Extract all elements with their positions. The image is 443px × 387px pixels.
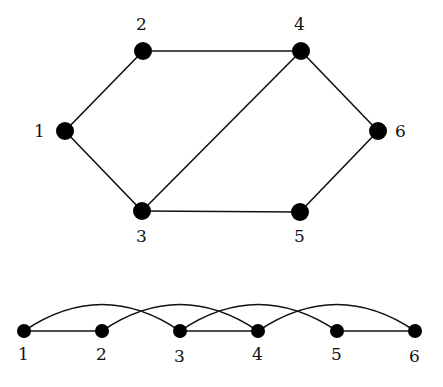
linear-node-2 [95,324,109,338]
linear-layout-edges [24,305,415,332]
edge-3-4 [142,51,301,211]
linear-label-2: 2 [96,344,107,364]
linear-layout-labels: 1 2 3 4 5 6 [18,344,420,366]
edge-4-6 [301,51,378,131]
linear-label-6: 6 [409,346,420,366]
linear-label-5: 5 [331,344,342,364]
label-node-2: 2 [136,14,147,34]
edge-1-3 [65,131,142,211]
label-node-5: 5 [294,226,305,246]
linear-label-4: 4 [252,344,263,364]
node-3 [133,202,151,220]
linear-node-6 [408,324,422,338]
linear-node-4 [251,324,265,338]
edge-3-5 [142,211,300,212]
label-node-1: 1 [34,121,45,141]
graph-diagram: 1 2 3 4 5 6 1 2 3 4 5 6 [0,0,443,387]
linear-label-1: 1 [18,344,29,364]
top-graph-edges [65,51,378,212]
linear-node-3 [173,324,187,338]
node-1 [56,122,74,140]
node-5 [291,203,309,221]
label-node-6: 6 [395,121,406,141]
node-6 [369,122,387,140]
edge-5-6 [300,131,378,212]
edge-1-2 [65,51,143,131]
node-2 [134,42,152,60]
linear-node-5 [330,324,344,338]
linear-node-1 [17,324,31,338]
linear-label-3: 3 [174,346,185,366]
label-node-3: 3 [136,226,147,246]
label-node-4: 4 [294,14,305,34]
node-4 [292,42,310,60]
